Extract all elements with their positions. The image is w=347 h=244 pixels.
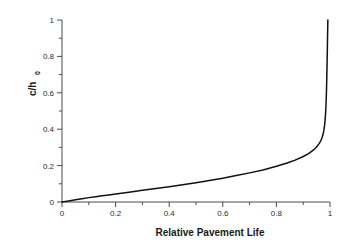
y-axis-tick-labels: 0 0.2 0.4 0.6 0.8 1: [43, 16, 55, 207]
y-tick-label: 0.2: [43, 162, 55, 171]
x-tick-label: 0.4: [164, 209, 176, 218]
x-tick-label: 1: [328, 209, 333, 218]
x-tick-label: 0.6: [217, 209, 229, 218]
y-tick-label: 0.8: [43, 52, 55, 61]
data-series-curve: [62, 20, 328, 202]
y-tick-label: 0.4: [43, 125, 55, 134]
y-tick-label: 0: [50, 198, 55, 207]
y-axis-title-subscript: 0: [34, 71, 41, 75]
chart-figure: c/h 0 0 0.2 0.4 0.6: [0, 0, 347, 244]
x-tick-label: 0.8: [271, 209, 283, 218]
x-tick-label: 0.2: [110, 209, 122, 218]
x-tick-label: 0: [60, 209, 65, 218]
y-axis-title-text: c/h: [27, 82, 38, 96]
y-tick-label: 1: [50, 16, 55, 25]
x-axis-tick-labels: 0 0.2 0.4 0.6 0.8 1: [60, 209, 333, 218]
x-axis-title: Relative Pavement Life: [156, 227, 265, 238]
y-tick-label: 0.6: [43, 89, 55, 98]
line-chart: c/h 0 0 0.2 0.4 0.6: [0, 0, 347, 244]
y-axis-title: c/h 0: [27, 71, 41, 96]
